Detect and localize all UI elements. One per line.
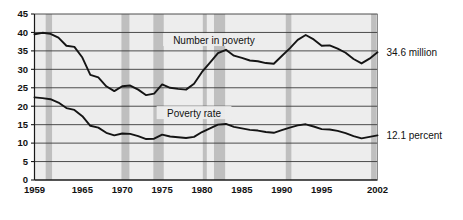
x-axis-ticks-layer: 195919651970197519801985199019952002 [24, 184, 388, 195]
x-tick-label-1970: 1970 [112, 184, 133, 195]
x-tick-label-1990: 1990 [271, 184, 292, 195]
x-tick-label-1985: 1985 [231, 184, 253, 195]
y-tick-label-30: 30 [17, 64, 28, 75]
number-in-poverty-label: Number in poverty [173, 35, 255, 46]
recession-band-2 [153, 14, 163, 180]
y-tick-label-25: 25 [17, 82, 28, 93]
y-tick-label-15: 15 [17, 119, 28, 130]
recession-band-0 [46, 14, 52, 180]
x-tick-label-1959: 1959 [24, 184, 45, 195]
x-tick-label-1995: 1995 [311, 184, 333, 195]
poverty-chart-figure: 051015202530354045 195919651970197519801… [0, 0, 463, 220]
y-axis-ticks-layer: 051015202530354045 [17, 8, 34, 185]
poverty-rate-label: Poverty rate [167, 108, 221, 119]
x-tick-label-1980: 1980 [191, 184, 212, 195]
y-tick-label-45: 45 [17, 8, 28, 19]
y-tick-label-35: 35 [17, 45, 28, 56]
y-tick-label-5: 5 [23, 156, 29, 167]
recession-band-6 [371, 14, 377, 180]
x-tick-label-1975: 1975 [152, 184, 174, 195]
y-tick-label-20: 20 [17, 101, 28, 112]
recession-band-5 [286, 14, 292, 180]
recession-band-1 [121, 14, 129, 180]
chart-plot-svg: 051015202530354045 195919651970197519801… [0, 0, 463, 220]
end-value-rate-label: 12.1 percent [387, 130, 443, 141]
x-tick-label-1965: 1965 [72, 184, 94, 195]
y-tick-label-40: 40 [17, 27, 28, 38]
y-tick-label-10: 10 [17, 137, 28, 148]
x-tick-label-2002: 2002 [367, 184, 388, 195]
end-value-number-label: 34.6 million [387, 47, 438, 58]
